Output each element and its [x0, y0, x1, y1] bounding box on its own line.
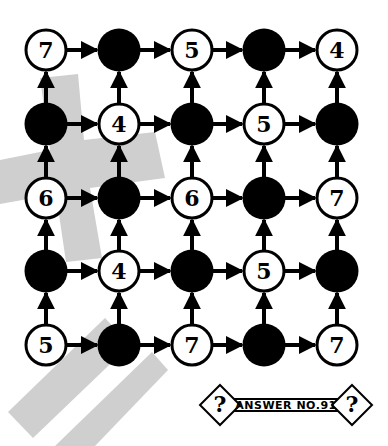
black-node [98, 29, 141, 72]
node-value: 5 [256, 111, 271, 137]
node-value: 7 [329, 185, 344, 211]
node-value: 7 [38, 37, 53, 63]
black-node [316, 250, 359, 293]
question-mark-left: ? [214, 391, 227, 417]
node-value: 5 [256, 258, 271, 284]
black-node [243, 324, 286, 367]
node-value: 5 [184, 37, 199, 63]
black-node [98, 177, 141, 220]
black-node [171, 250, 214, 293]
node-value: 6 [38, 185, 53, 211]
node-value: 4 [111, 111, 126, 137]
answer-label: ANSWER NO.91 [235, 399, 336, 412]
grid-canvas: 7544566745577 ? ? ANSWER NO.91 [0, 0, 388, 446]
node-value: 7 [329, 332, 344, 358]
node-value: 4 [111, 258, 126, 284]
node-value: 6 [184, 185, 199, 211]
black-node [243, 29, 286, 72]
node-value: 4 [329, 37, 344, 63]
black-node [25, 103, 68, 146]
black-node [243, 177, 286, 220]
black-node [25, 250, 68, 293]
watermark-shapes [0, 74, 168, 446]
node-value: 5 [38, 332, 53, 358]
puzzle-diagram: 7544566745577 ? ? ANSWER NO.91 [0, 0, 388, 446]
black-node [98, 324, 141, 367]
answer-banner: ? ? ANSWER NO.91 [200, 385, 372, 425]
black-node [316, 103, 359, 146]
question-mark-right: ? [346, 391, 359, 417]
black-node [171, 103, 214, 146]
node-value: 7 [184, 332, 199, 358]
